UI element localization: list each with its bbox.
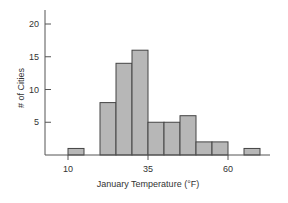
y-axis-title: # of Cities (16, 67, 26, 108)
histogram-bar (148, 122, 164, 155)
x-axis-ticks: 103560 (63, 155, 233, 174)
histogram-bar (212, 142, 228, 155)
histogram-bar (116, 63, 132, 155)
y-tick-label: 5 (34, 117, 39, 127)
histogram-bar (164, 122, 180, 155)
histogram-chart: 5101520 103560 January Temperature (°F) … (0, 0, 288, 203)
histogram-bar (100, 103, 116, 155)
y-tick-label: 15 (29, 52, 39, 62)
histogram-bars (68, 50, 260, 155)
y-tick-label: 10 (29, 85, 39, 95)
histogram-bar (196, 142, 212, 155)
x-tick-label: 35 (143, 164, 153, 174)
x-tick-label: 10 (63, 164, 73, 174)
histogram-bar (180, 116, 196, 155)
histogram-bar (244, 148, 260, 155)
histogram-bar (68, 148, 84, 155)
y-axis-ticks: 5101520 (29, 19, 51, 127)
y-tick-label: 20 (29, 19, 39, 29)
histogram-bar (132, 50, 148, 155)
x-tick-label: 60 (223, 164, 233, 174)
x-axis-title: January Temperature (°F) (97, 179, 199, 189)
